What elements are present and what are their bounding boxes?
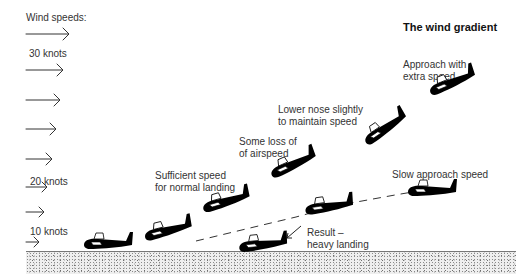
glider-layer xyxy=(0,0,516,274)
glider-icon xyxy=(238,230,289,252)
wind-gradient-diagram: The wind gradient Wind speeds: 30 knots … xyxy=(0,0,516,274)
glider-icon xyxy=(359,105,409,146)
glider-icon xyxy=(84,232,133,249)
glider-icon xyxy=(304,192,355,216)
glider-icon xyxy=(142,213,194,241)
glider-icon xyxy=(408,179,457,196)
glider-icon xyxy=(426,62,478,96)
result-arrow-icon xyxy=(287,226,301,238)
glider-icon xyxy=(200,184,252,214)
glider-icon xyxy=(267,144,319,179)
